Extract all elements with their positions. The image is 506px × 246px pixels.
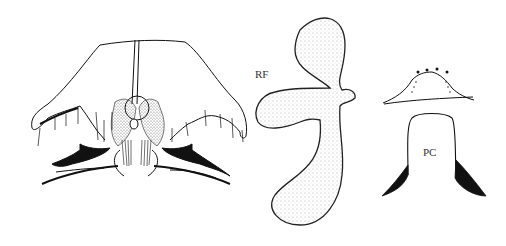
figure-canvas: RF PC <box>0 0 506 246</box>
rf-label: RF <box>255 68 268 80</box>
head-capsule-drawing <box>32 40 247 184</box>
rf-drawing: RF <box>255 18 355 225</box>
pc-drawing: PC <box>382 68 486 197</box>
pc-label: PC <box>423 146 436 158</box>
